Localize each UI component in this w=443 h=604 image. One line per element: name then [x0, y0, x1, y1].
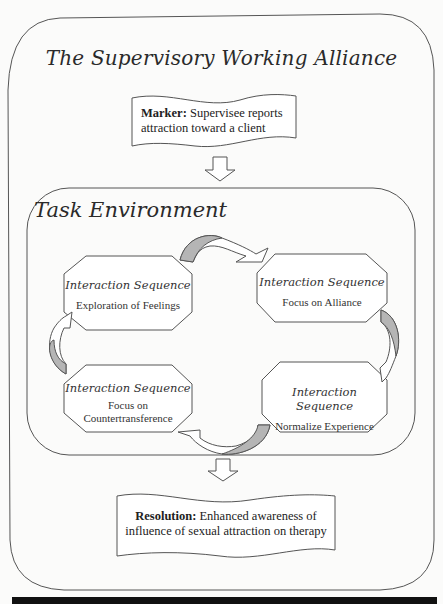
resolution-line2: influence of sexual attraction on therap… — [125, 524, 327, 538]
sequence-heading: Interaction Sequence — [64, 381, 192, 395]
sequence-label-line2: Countertransference — [64, 412, 192, 425]
sequence-label: Exploration of Feelings — [64, 299, 192, 312]
marker-line2: attraction toward a client — [141, 121, 266, 135]
resolution-text: Resolution: Enhanced awareness of influe… — [118, 509, 334, 539]
sequence-countertransference: Interaction Sequence Focus on Countertra… — [64, 381, 192, 425]
curved-arrow-left — [50, 312, 72, 374]
resolution-label: Resolution: — [135, 509, 196, 523]
sequence-label-line1: Focus on — [64, 399, 192, 412]
marker-text: Marker: Supervisee reports attraction to… — [141, 106, 291, 136]
task-environment-title: Task Environment — [34, 198, 227, 222]
sequence-heading: Interaction Sequence — [262, 385, 387, 413]
curved-arrow-bottom — [178, 425, 270, 454]
marker-label: Marker: — [141, 106, 187, 120]
diagram-title: The Supervisory Working Alliance — [0, 46, 443, 70]
sequence-heading: Interaction Sequence — [257, 275, 387, 289]
bottom-bar — [12, 597, 437, 604]
curved-arrow-right — [380, 310, 399, 382]
sequence-exploration: Interaction Sequence Exploration of Feel… — [64, 278, 192, 312]
sequence-normalize: Interaction Sequence Normalize Experienc… — [262, 385, 387, 433]
sequence-label: Focus on Alliance — [257, 296, 387, 309]
resolution-line1: Enhanced awareness of — [199, 509, 316, 523]
sequence-heading: Interaction Sequence — [64, 278, 192, 292]
sequence-alliance: Interaction Sequence Focus on Alliance — [257, 275, 387, 309]
curved-arrow-top — [180, 236, 268, 262]
sequence-label: Normalize Experience — [262, 420, 387, 433]
down-arrow-2 — [208, 459, 238, 481]
down-arrow-1 — [205, 157, 235, 181]
marker-line1: Supervisee reports — [190, 106, 283, 120]
